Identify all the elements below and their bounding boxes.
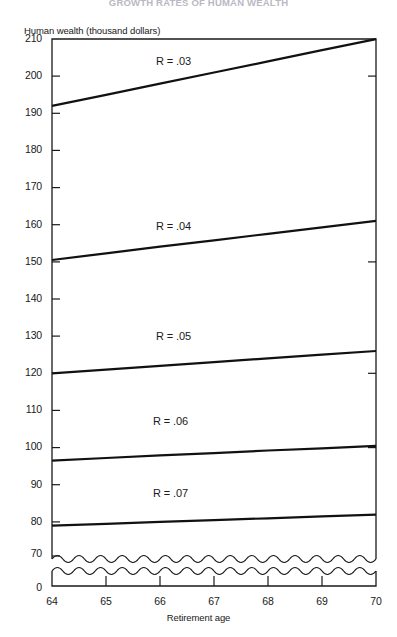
y-tick-marks <box>52 76 60 556</box>
y-axis-break-wave <box>52 556 376 575</box>
series-lines <box>52 39 376 525</box>
chart-figure: GROWTH RATES OF HUMAN WEALTH Human wealt… <box>0 0 397 637</box>
plot-area <box>0 0 397 637</box>
series-line-r-004 <box>52 221 376 260</box>
series-line-r-003 <box>52 39 376 106</box>
y-tick-marks-right <box>368 76 376 448</box>
axis-frame <box>52 39 376 586</box>
x-tick-marks <box>106 576 322 586</box>
series-line-r-006 <box>52 446 376 461</box>
series-line-r-007 <box>52 515 376 526</box>
series-line-r-005 <box>52 351 376 373</box>
